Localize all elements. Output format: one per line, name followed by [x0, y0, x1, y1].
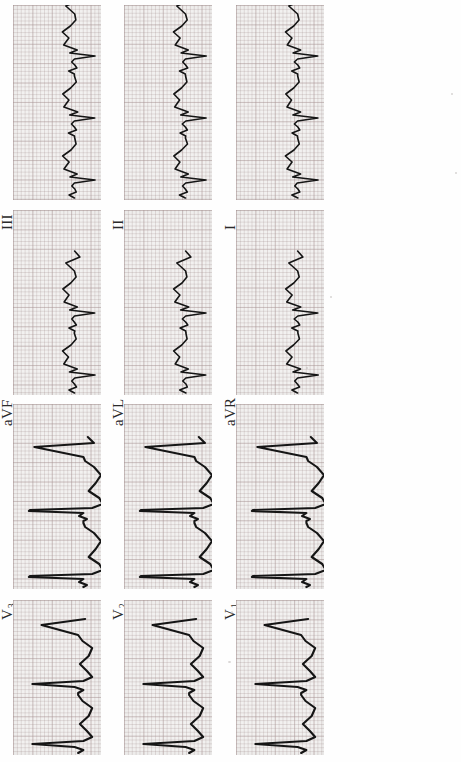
scan-speckle [231, 611, 233, 614]
ecg-sheet: IIIaVFV3V6IIaVLV2V5IaVRV1V4 [0, 0, 461, 762]
ecg-graph-paper-avl [124, 210, 212, 395]
ecg-trace-ii [124, 5, 212, 200]
ecg-trace-i [236, 5, 324, 200]
ecg-graph-paper-v5 [124, 600, 212, 755]
ecg-graph-paper-v3 [13, 404, 101, 589]
ecg-graph-paper-iii [13, 5, 101, 200]
ecg-graph-paper-ii [124, 5, 212, 200]
ecg-graph-paper-v1 [236, 404, 324, 589]
ecg-trace-v5 [124, 600, 212, 755]
ecg-trace-avf [13, 210, 101, 395]
scan-speckle [330, 296, 332, 298]
ecg-graph-paper-i [236, 5, 324, 200]
ecg-graph-paper-v2 [124, 404, 212, 589]
scan-speckle [451, 93, 453, 95]
ecg-graph-paper-v6 [13, 600, 101, 755]
ecg-trace-avr [236, 210, 324, 395]
ecg-trace-v6 [13, 600, 101, 755]
scan-speckle [228, 661, 231, 663]
scan-speckle [455, 172, 457, 174]
ecg-trace-avl [124, 210, 212, 395]
ecg-trace-v4 [236, 600, 324, 755]
ecg-graph-paper-avf [13, 210, 101, 395]
ecg-graph-paper-avr [236, 210, 324, 395]
ecg-trace-v3 [13, 404, 101, 589]
ecg-trace-v1 [236, 404, 324, 589]
scan-speckle [306, 367, 308, 369]
ecg-trace-v2 [124, 404, 212, 589]
ecg-graph-paper-v4 [236, 600, 324, 755]
ecg-trace-iii [13, 5, 101, 200]
